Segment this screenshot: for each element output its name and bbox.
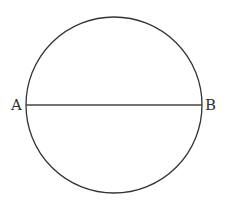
point-label-a: A: [10, 96, 22, 114]
point-label-b: B: [205, 96, 216, 114]
diagram-canvas: A B: [0, 0, 229, 203]
